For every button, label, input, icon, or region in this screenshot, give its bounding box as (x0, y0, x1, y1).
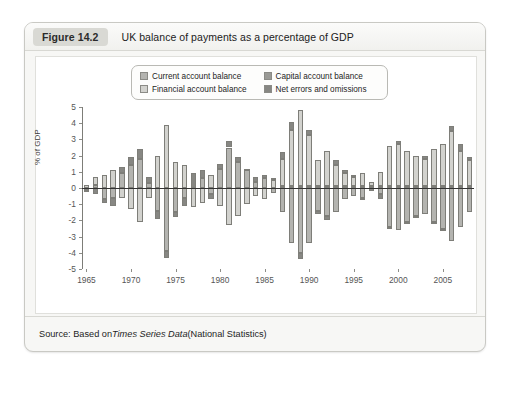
bar-segment (360, 173, 366, 186)
y-axis-tick-label: -3 (56, 232, 76, 242)
source-suffix: (National Statistics) (188, 329, 267, 339)
bar-segment (102, 199, 108, 202)
bar-segment (155, 211, 161, 219)
bar-segment (84, 190, 90, 192)
x-axis-tick-label: 2005 (433, 275, 452, 285)
source-title: Times Series Data (112, 329, 187, 339)
bar-segment (191, 188, 197, 207)
bar-segment (378, 194, 384, 199)
bar-segment (342, 188, 348, 199)
bar-segment (280, 159, 286, 187)
bar-segment (360, 198, 366, 200)
bar-segment (298, 110, 304, 186)
bar-segment (306, 130, 312, 135)
bar-segment (164, 188, 170, 251)
bar-segment (253, 177, 259, 182)
bar-segment (119, 167, 125, 173)
bar-segment (396, 144, 402, 186)
bar-segment (271, 180, 277, 188)
bar-segment (146, 177, 152, 183)
y-axis-tick (79, 204, 82, 205)
y-axis-tick (79, 107, 82, 108)
y-axis-tick (79, 237, 82, 238)
bar-segment (119, 173, 125, 188)
bar-segment (208, 175, 214, 188)
bar-segment (289, 188, 295, 243)
bar-segment (298, 253, 304, 259)
bar-segment (440, 144, 446, 186)
bar-segment (137, 188, 143, 222)
y-axis-tick-label: -1 (56, 199, 76, 209)
x-axis-tick (131, 269, 132, 272)
source-prefix: Source: Based on (39, 329, 112, 339)
bar-segment (369, 182, 375, 187)
bar-segment (93, 177, 99, 185)
bar-segment (431, 149, 437, 186)
bar-segment (342, 170, 348, 173)
bar-segment (413, 188, 419, 216)
bar-segment (324, 188, 330, 216)
bar-segment (449, 126, 455, 131)
bar-segment (324, 151, 330, 187)
x-axis-tick-label: 1985 (255, 275, 274, 285)
bar-segment (217, 169, 223, 188)
bar-segment (102, 188, 108, 199)
bar-segment (458, 151, 464, 187)
x-axis-tick (309, 269, 310, 272)
y-axis-tick-label: 2 (56, 151, 76, 161)
bar-segment (467, 157, 473, 160)
x-axis-tick (86, 269, 87, 272)
y-axis-tick (79, 156, 82, 157)
bar-segment (449, 131, 455, 186)
figure-source-note: Source: Based on Times Series Data (Nati… (25, 316, 485, 351)
x-axis-tick (398, 269, 399, 272)
bar-segment (440, 188, 446, 229)
chart-plot-area: % of GDP 543210-1-2-3-4-5196519701975198… (36, 57, 478, 315)
y-axis-label: % of GDP (33, 129, 42, 165)
bar-segment (244, 188, 250, 204)
bar-segment (298, 188, 304, 253)
bar-segment (110, 170, 116, 188)
bar-segment (217, 188, 223, 206)
bar-segment (396, 141, 402, 144)
bar-segment (128, 188, 134, 209)
bar-segment (164, 125, 170, 188)
x-axis-tick (176, 269, 177, 272)
bar-segment (226, 148, 232, 189)
x-axis-tick-label: 1990 (300, 275, 319, 285)
x-axis-tick-label: 1965 (77, 275, 96, 285)
bar-segment (173, 188, 179, 212)
bar-segment (244, 170, 250, 188)
bar-segment (333, 188, 339, 212)
y-axis-tick-label: 0 (56, 183, 76, 193)
y-axis-tick-label: -2 (56, 215, 76, 225)
plot-panel: Current account balanceCapital account b… (35, 56, 477, 314)
bar-segment (404, 151, 410, 187)
bar-segment (413, 216, 419, 218)
bar-segment (110, 188, 116, 198)
bar-segment (449, 188, 455, 241)
bar-segment (378, 172, 384, 187)
bar-segment (422, 188, 428, 214)
bar-segment (164, 251, 170, 257)
y-axis-tick (79, 172, 82, 173)
zero-baseline (82, 188, 474, 189)
bar-segment (226, 188, 232, 225)
bar-segment (315, 160, 321, 186)
bar-segment (404, 188, 410, 222)
bar-segment (182, 198, 188, 206)
bar-segment (413, 156, 419, 187)
bar-segment (306, 135, 312, 187)
bar-segment (262, 188, 268, 199)
bar-segment (458, 188, 464, 227)
bar-segment (102, 175, 108, 188)
y-axis-tick-label: -4 (56, 248, 76, 258)
bar-segment (182, 188, 188, 198)
y-axis-tick (79, 253, 82, 254)
bar-segment (315, 188, 321, 211)
bar-segment (440, 229, 446, 231)
x-axis-tick (354, 269, 355, 272)
bar-segment (431, 222, 437, 224)
bar-segment (235, 188, 241, 216)
bar-segment (110, 198, 116, 206)
